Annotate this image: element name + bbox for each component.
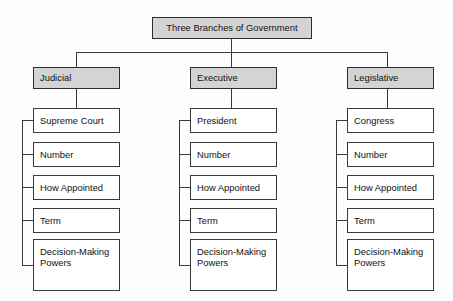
node-legislative-number: Number [347, 142, 434, 167]
branch-header-legislative-label: Legislative [354, 72, 429, 83]
node-label: Decision-Making Powers [40, 246, 115, 269]
node-executive-term: Term [190, 208, 277, 233]
branch-header-executive-label: Executive [197, 72, 272, 83]
node-label: President [197, 115, 272, 126]
node-label: How Appointed [197, 182, 272, 193]
branch-drop-judicial [76, 52, 77, 67]
spine-legislative [336, 120, 337, 266]
trunk-connector [231, 38, 232, 53]
node-label: Term [40, 215, 115, 226]
node-executive-president: President [190, 108, 277, 133]
node-label: How Appointed [40, 182, 115, 193]
node-label: Decision-Making Powers [354, 246, 429, 269]
node-label: Congress [354, 115, 429, 126]
node-legislative-decision-making-powers: Decision-Making Powers [347, 239, 434, 291]
chart-title-box: Three Branches of Government [152, 17, 312, 39]
node-judicial-term: Term [33, 208, 120, 233]
org-chart-diagram: Three Branches of Government Judicial Su… [0, 0, 453, 301]
node-legislative-congress: Congress [347, 108, 434, 133]
node-label: Number [354, 149, 429, 160]
branch-drop-legislative [387, 52, 388, 67]
node-judicial-how-appointed: How Appointed [33, 175, 120, 200]
header-to-first-connector-legislative [387, 89, 388, 108]
node-label: Number [40, 149, 115, 160]
node-judicial-number: Number [33, 142, 120, 167]
node-executive-number: Number [190, 142, 277, 167]
node-label: Number [197, 149, 272, 160]
node-judicial-supreme-court: Supreme Court [33, 108, 120, 133]
spine-judicial [22, 120, 23, 266]
node-label: Term [197, 215, 272, 226]
spine-executive [179, 120, 180, 266]
header-to-first-connector-judicial [76, 89, 77, 108]
node-legislative-term: Term [347, 208, 434, 233]
branch-header-judicial-label: Judicial [40, 72, 115, 83]
node-executive-decision-making-powers: Decision-Making Powers [190, 239, 277, 291]
chart-title-label: Three Branches of Government [153, 22, 311, 33]
branch-drop-executive [231, 52, 232, 67]
node-label: Term [354, 215, 429, 226]
node-judicial-decision-making-powers: Decision-Making Powers [33, 239, 120, 291]
node-label: Supreme Court [40, 115, 115, 126]
branch-header-legislative: Legislative [347, 67, 434, 89]
branch-header-judicial: Judicial [33, 67, 120, 89]
node-label: Decision-Making Powers [197, 246, 272, 269]
node-legislative-how-appointed: How Appointed [347, 175, 434, 200]
header-to-first-connector-executive [231, 89, 232, 108]
node-label: How Appointed [354, 182, 429, 193]
node-executive-how-appointed: How Appointed [190, 175, 277, 200]
branch-header-executive: Executive [190, 67, 277, 89]
